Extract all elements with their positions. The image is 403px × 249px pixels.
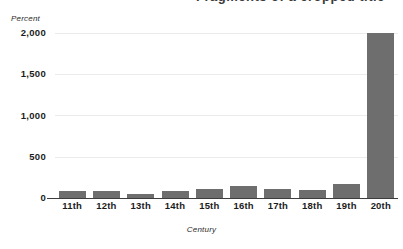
y-tick-label-2000: 2,000 [2,27,46,38]
bar-11th[interactable] [59,191,86,198]
x-tick-label-11th: 11th [55,200,89,211]
x-tick-label-19th: 19th [329,200,363,211]
bar-chart-figure: Percent 2,000 1,500 1,000 500 0 11th 12t… [0,0,403,249]
bar-series [55,33,398,198]
bar-12th[interactable] [93,191,120,198]
x-tick-label-12th: 12th [89,200,123,211]
y-tick-label-1000: 1,000 [2,110,46,121]
bar-14th[interactable] [162,191,189,198]
x-tick-label-18th: 18th [295,200,329,211]
bar-slot-14th [158,33,192,198]
bar-slot-16th [226,33,260,198]
bar-slot-12th [89,33,123,198]
x-tick-label-16th: 16th [226,200,260,211]
y-tick-label-500: 500 [2,151,46,162]
bar-slot-11th [55,33,89,198]
bar-slot-13th [124,33,158,198]
bar-17th[interactable] [264,189,291,198]
bar-slot-19th [329,33,363,198]
bar-18th[interactable] [299,190,326,198]
y-tick-label-1500: 1,500 [2,68,46,79]
x-axis-title: Century [0,225,403,234]
x-tick-label-13th: 13th [124,200,158,211]
x-tick-label-20th: 20th [364,200,398,211]
x-tick-label-17th: 17th [261,200,295,211]
bar-slot-20th [364,33,398,198]
bar-19th[interactable] [333,184,360,198]
bar-slot-18th [295,33,329,198]
x-tick-label-15th: 15th [192,200,226,211]
x-axis-tick-labels: 11th 12th 13th 14th 15th 16th 17th 18th … [55,200,398,211]
bar-20th[interactable] [367,33,394,198]
bar-15th[interactable] [196,189,223,198]
bar-slot-15th [192,33,226,198]
y-axis-title: Percent [11,14,40,23]
y-tick-label-0: 0 [2,192,46,203]
bar-13th[interactable] [127,194,154,198]
x-axis-line [47,198,398,199]
bar-16th[interactable] [230,186,257,198]
x-tick-label-14th: 14th [158,200,192,211]
bar-slot-17th [261,33,295,198]
